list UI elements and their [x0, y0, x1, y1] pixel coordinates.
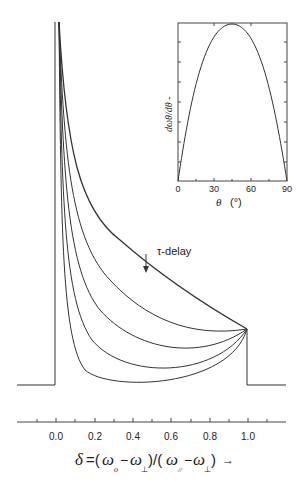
- curve-1: [59, 22, 247, 329]
- svg-text:−: −: [184, 452, 192, 468]
- tau-delay-label: τ-delay: [157, 245, 192, 257]
- inset-xlabel-theta: θ: [216, 196, 222, 208]
- svg-text:⊥: ⊥: [204, 465, 211, 474]
- svg-text:ω: ω: [102, 450, 114, 469]
- baseline-right: [247, 329, 286, 385]
- x-tick-label: 1.0: [241, 431, 255, 442]
- inset-x-tick-labels: 0 30 60 90: [175, 184, 292, 194]
- svg-text:δ: δ: [75, 450, 84, 469]
- inset-frame: [178, 23, 287, 181]
- x-tick-label: 0.4: [126, 431, 140, 442]
- inset-xlabel-unit: (°): [230, 196, 242, 208]
- inset-plot: 0 30 60 90 θ (°) dωθ/dθ -: [163, 23, 292, 208]
- x-tick-label: 0.2: [88, 431, 102, 442]
- x-tick-label: 0.6: [164, 431, 178, 442]
- figure: τ-delay 0.0 0.2 0.4 0.6 0.8 1.0 δ =( ω o…: [0, 0, 306, 486]
- x-tick-label: 0.8: [203, 431, 217, 442]
- inset-ticks: [178, 23, 287, 181]
- inset-curve: [178, 24, 287, 181]
- inset-x-tick-label: 0: [175, 184, 180, 194]
- svg-text:⊥: ⊥: [141, 465, 148, 474]
- x-axis: [17, 418, 286, 422]
- x-tick-labels: 0.0 0.2 0.4 0.6 0.8 1.0: [49, 431, 255, 442]
- svg-text:→: →: [222, 453, 234, 467]
- inset-x-tick-label: 90: [282, 184, 292, 194]
- svg-text:=(: =(: [86, 451, 100, 468]
- inset-x-tick-label: 30: [209, 184, 219, 194]
- svg-text://: //: [177, 466, 183, 474]
- x-axis-label: δ =( ω o − ω ⊥ )/( ω // − ω ⊥ ) →: [75, 450, 234, 474]
- x-tick-label: 0.0: [49, 431, 63, 442]
- curve-2: [59, 22, 247, 331]
- svg-text:)/(: )/(: [148, 451, 162, 468]
- svg-text:−: −: [120, 452, 128, 468]
- inset-ylabel: dωθ/dθ -: [163, 97, 174, 133]
- svg-text:o: o: [114, 465, 118, 474]
- svg-text:): ): [211, 451, 216, 468]
- inset-x-tick-label: 60: [246, 184, 256, 194]
- svg-text:ω: ω: [166, 450, 178, 469]
- baseline-left: [17, 22, 55, 385]
- main-plot: [17, 22, 286, 385]
